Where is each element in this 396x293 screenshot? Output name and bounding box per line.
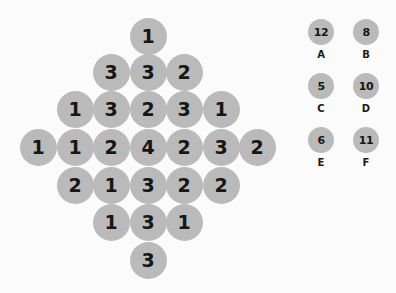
option-e[interactable]: 6 E — [301, 127, 341, 168]
answer-options: 12 A 8 B 5 C 10 D 6 E 11 F — [290, 0, 396, 200]
board-cell[interactable]: 3 — [93, 91, 130, 128]
board-cell[interactable]: 1 — [57, 91, 94, 128]
board-cell[interactable]: 3 — [93, 54, 130, 91]
option-label: A — [317, 50, 325, 60]
board-cell[interactable]: 2 — [239, 129, 276, 166]
board-cell[interactable]: 3 — [203, 129, 240, 166]
option-label: F — [363, 158, 370, 168]
board-cell[interactable]: 3 — [130, 54, 167, 91]
board-cell[interactable]: 1 — [166, 204, 203, 241]
option-value-circle: 8 — [353, 19, 379, 45]
board-cell[interactable]: 1 — [93, 167, 130, 204]
board-cell[interactable]: 3 — [166, 91, 203, 128]
board-cell[interactable]: 3 — [130, 167, 167, 204]
number-diamond-board: 1 3 3 2 1 3 2 3 1 1 1 2 4 2 3 2 2 1 3 2 … — [0, 0, 290, 293]
board-cell[interactable]: 2 — [166, 54, 203, 91]
board-cell[interactable]: 1 — [203, 91, 240, 128]
board-cell[interactable]: 1 — [130, 18, 167, 55]
option-value-circle: 5 — [308, 73, 334, 99]
option-label: E — [318, 158, 325, 168]
board-cell[interactable]: 2 — [203, 167, 240, 204]
option-value-circle: 12 — [308, 19, 334, 45]
board-cell[interactable]: 4 — [130, 129, 167, 166]
option-value-circle: 6 — [308, 127, 334, 153]
board-cell[interactable]: 2 — [93, 129, 130, 166]
option-b[interactable]: 8 B — [346, 19, 386, 60]
board-cell[interactable]: 3 — [130, 242, 167, 279]
board-cell[interactable]: 1 — [57, 129, 94, 166]
option-label: C — [317, 104, 324, 114]
option-f[interactable]: 11 F — [346, 127, 386, 168]
board-cell[interactable]: 2 — [166, 129, 203, 166]
option-label: D — [362, 104, 370, 114]
option-a[interactable]: 12 A — [301, 19, 341, 60]
option-value-circle: 11 — [353, 127, 379, 153]
board-cell[interactable]: 2 — [166, 167, 203, 204]
board-cell[interactable]: 2 — [130, 91, 167, 128]
board-cell[interactable]: 2 — [57, 167, 94, 204]
option-d[interactable]: 10 D — [346, 73, 386, 114]
board-cell[interactable]: 3 — [130, 204, 167, 241]
option-c[interactable]: 5 C — [301, 73, 341, 114]
board-cell[interactable]: 1 — [93, 204, 130, 241]
option-label: B — [362, 50, 370, 60]
board-cell[interactable]: 1 — [20, 129, 57, 166]
option-value-circle: 10 — [353, 73, 379, 99]
